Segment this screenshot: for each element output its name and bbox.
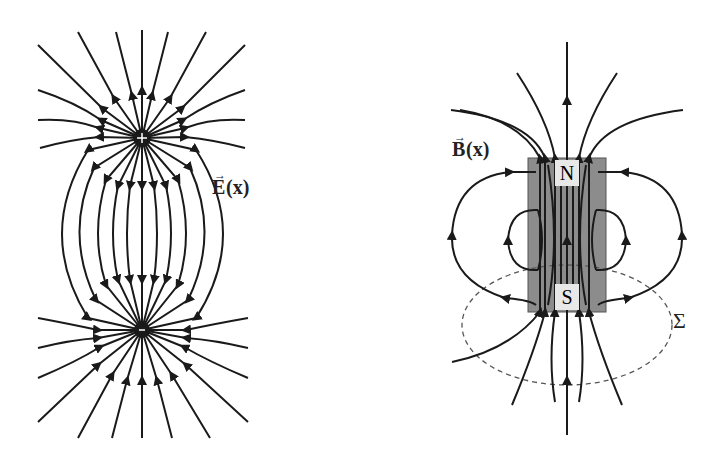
south-pole-label: S xyxy=(555,284,579,310)
north-pole-label: N xyxy=(555,160,579,186)
bar-magnet-figure xyxy=(451,42,683,435)
electric-dipole xyxy=(38,30,248,438)
dipole-connecting-lines xyxy=(62,138,223,330)
surface-sigma-label: Σ xyxy=(673,308,686,334)
field-lines-figure xyxy=(0,0,718,460)
